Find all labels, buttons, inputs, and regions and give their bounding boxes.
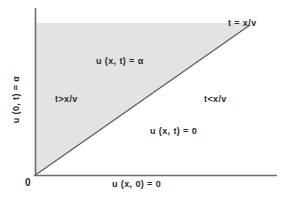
x-axis-label: u (x, 0) = 0: [112, 180, 161, 189]
region-zero-label: u (x, t) = 0: [150, 127, 197, 136]
origin-label: 0: [25, 178, 31, 188]
characteristic-line-label: t = x/v: [228, 19, 257, 28]
region-alpha-label: u (x, t) = α: [96, 57, 144, 66]
characteristics-diagram: u (0, t) = α t = x/v u (x, t) = α t>x/v …: [0, 0, 289, 202]
inequality-right-label: t<x/v: [204, 95, 227, 104]
y-axis-label: u (0, t) = α: [12, 62, 21, 138]
plot-canvas: [0, 0, 289, 202]
inequality-left-label: t>x/v: [55, 95, 78, 104]
